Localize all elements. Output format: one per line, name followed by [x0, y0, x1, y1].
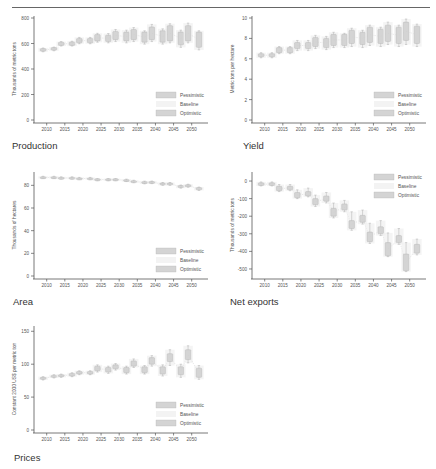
y-tick-label: -200: [238, 214, 248, 219]
legend-label: Optimistic: [180, 421, 202, 426]
x-tick-label: 2030: [114, 127, 125, 132]
y-tick-label: 6: [244, 57, 247, 62]
x-tick-label: 2050: [187, 283, 198, 288]
x-tick-label: 2025: [96, 437, 107, 442]
box-plot: [401, 19, 411, 45]
legend-label: Baseline: [180, 102, 199, 107]
legend-swatch: [374, 183, 394, 189]
caption-prices: Prices: [14, 452, 40, 463]
x-tick-label: 2035: [132, 127, 143, 132]
legend-swatch: [374, 174, 394, 180]
x-tick-label: 2010: [260, 283, 271, 288]
x-tick-label: 2015: [278, 283, 289, 288]
y-tick-label: 0: [244, 118, 247, 123]
box-plot: [129, 359, 139, 368]
y-tick-label: 0: [244, 179, 247, 184]
x-tick-label: 2045: [168, 127, 179, 132]
y-axis-label: Constant 2000 US$ per metric ton: [12, 342, 17, 415]
legend-swatch: [156, 420, 176, 426]
legend-swatch: [374, 101, 394, 107]
x-tick-label: 2025: [314, 127, 325, 132]
x-tick-label: 2040: [368, 127, 379, 132]
y-tick-label: 800: [21, 16, 29, 21]
y-tick-label: 20: [24, 251, 30, 256]
x-tick-label: 2050: [187, 437, 198, 442]
y-tick-label: 100: [21, 362, 29, 367]
legend-label: Optimistic: [398, 111, 420, 116]
legend-swatch: [156, 411, 176, 417]
caption-area: Area: [13, 296, 33, 307]
y-tick-label: -300: [238, 232, 248, 237]
x-tick-label: 2030: [114, 437, 125, 442]
legend-label: Baseline: [398, 102, 417, 107]
y-tick-label: 40: [24, 229, 30, 234]
legend-label: Optimistic: [180, 267, 202, 272]
x-tick-label: 2045: [168, 437, 179, 442]
figure-header: [8, 0, 428, 4]
y-tick-label: 60: [24, 206, 30, 211]
x-tick-label: 2040: [150, 437, 161, 442]
legend-label: Optimistic: [180, 111, 202, 116]
box-plot: [340, 200, 350, 211]
chart-net-exports: 0-100-200-300-400-500Thousands of metric…: [222, 168, 434, 293]
caption-yield: Yield: [243, 140, 264, 151]
box-plot: [49, 47, 59, 51]
x-tick-label: 2020: [78, 127, 89, 132]
legend-swatch: [374, 92, 394, 98]
x-tick-label: 2025: [96, 283, 107, 288]
chart-area: 020406080Thousands of hectares2010201520…: [4, 168, 216, 293]
box-plot: [147, 24, 157, 41]
x-tick-label: 2015: [278, 127, 289, 132]
x-tick-label: 2025: [314, 283, 325, 288]
x-tick-label: 2050: [187, 127, 198, 132]
box-plot: [401, 243, 411, 272]
legend-label: Optimistic: [398, 193, 420, 198]
box-plot: [365, 223, 375, 243]
caption-production: Production: [12, 140, 57, 151]
chart-prices: 050100150Constant 2000 US$ per metric to…: [4, 322, 216, 447]
box-plot: [394, 229, 404, 245]
y-tick-label: 400: [21, 67, 29, 72]
y-tick-label: 50: [24, 395, 30, 400]
legend-label: Pessimistic: [398, 93, 423, 98]
x-tick-label: 2020: [78, 283, 89, 288]
y-tick-label: 2: [244, 98, 247, 103]
legend-label: Pessimistic: [180, 249, 205, 254]
y-axis-label: Metric tons per hectare: [230, 44, 235, 93]
legend-swatch: [156, 92, 176, 98]
y-tick-label: 10: [242, 16, 248, 21]
x-tick-label: 2035: [132, 437, 143, 442]
x-tick-label: 2015: [60, 127, 71, 132]
x-tick-label: 2040: [150, 283, 161, 288]
box-plot: [322, 192, 332, 203]
box-plot: [329, 203, 339, 218]
legend-label: Baseline: [398, 184, 417, 189]
y-tick-label: -100: [238, 197, 248, 202]
x-tick-label: 2035: [350, 283, 361, 288]
box-plot: [358, 210, 368, 224]
x-tick-label: 2040: [368, 283, 379, 288]
box-plot: [194, 187, 204, 190]
y-tick-label: -400: [238, 249, 248, 254]
legend-label: Pessimistic: [180, 93, 205, 98]
x-tick-label: 2050: [405, 283, 416, 288]
y-tick-label: 0: [26, 428, 29, 433]
legend-label: Pessimistic: [398, 175, 423, 180]
x-tick-label: 2040: [150, 127, 161, 132]
y-tick-label: 200: [21, 93, 29, 98]
x-tick-label: 2015: [60, 283, 71, 288]
chart-production: 0200400600800Thousands of metric tons201…: [4, 12, 216, 137]
y-tick-label: 150: [21, 329, 29, 334]
legend-swatch: [156, 402, 176, 408]
x-tick-label: 2015: [60, 437, 71, 442]
legend-swatch: [156, 110, 176, 116]
y-tick-label: 0: [26, 274, 29, 279]
x-tick-label: 2035: [132, 283, 143, 288]
x-tick-label: 2020: [78, 437, 89, 442]
legend-swatch: [374, 110, 394, 116]
box-plot: [347, 212, 357, 230]
x-tick-label: 2045: [386, 283, 397, 288]
legend-swatch: [156, 101, 176, 107]
box-plot: [194, 366, 204, 380]
x-tick-label: 2050: [405, 127, 416, 132]
